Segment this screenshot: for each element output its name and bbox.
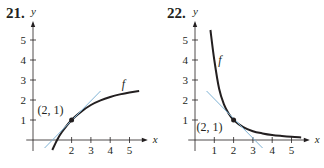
y-tick-label: 1 (21, 114, 27, 126)
y-tick-label: 1 (183, 114, 189, 126)
x-tick-label: 3 (250, 144, 256, 156)
point-label: (2, 1) (38, 103, 64, 117)
x-tick-label: 3 (88, 144, 94, 156)
x-tick-label: 5 (127, 144, 133, 156)
point-marker (69, 118, 74, 123)
y-tick-label: 5 (183, 34, 189, 46)
point-label: (2, 1) (197, 120, 223, 134)
x-axis-label: x (314, 133, 320, 145)
y-tick-label: 4 (21, 54, 27, 66)
y-axis-arrow-icon (31, 21, 35, 27)
x-tick-label: 4 (269, 144, 275, 156)
x-axis-arrow-icon (304, 138, 310, 142)
y-axis-label: y (30, 5, 36, 17)
graphs-canvas: xy234512345(2, 1)f xy1234512345(2, 1)f (0, 0, 324, 168)
y-tick-label: 3 (21, 74, 27, 86)
graph-21: xy234512345(2, 1)f (21, 5, 158, 156)
y-tick-label: 3 (183, 74, 189, 86)
x-tick-label: 5 (289, 144, 295, 156)
function-label: f (218, 53, 223, 67)
x-tick-label: 4 (107, 144, 113, 156)
x-axis-label: x (152, 133, 158, 145)
graph-22: xy1234512345(2, 1)f (183, 5, 320, 156)
y-axis-arrow-icon (193, 21, 197, 27)
x-tick-label: 1 (212, 144, 218, 156)
y-tick-label: 2 (21, 94, 27, 106)
function-label: f (122, 77, 127, 91)
x-tick-label: 2 (231, 144, 237, 156)
y-tick-label: 2 (183, 94, 189, 106)
x-tick-label: 2 (69, 144, 75, 156)
y-tick-label: 5 (21, 34, 27, 46)
point-marker (231, 118, 236, 123)
y-tick-label: 4 (183, 54, 189, 66)
y-axis-label: y (192, 5, 198, 17)
function-curve-f (52, 91, 139, 150)
function-curve-f (210, 30, 301, 137)
x-axis-arrow-icon (142, 138, 148, 142)
